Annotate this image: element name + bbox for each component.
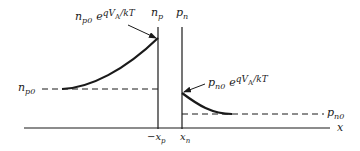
- np-edge-annotation: np0eqVA/kT: [75, 8, 136, 25]
- np-excess-curve: [62, 38, 158, 89]
- xn-label: xn: [180, 131, 191, 145]
- pn-junction-minority-carrier-diagram: x np pn −xp xn np0 pn0 np0eqVA/kT pn0eqV…: [0, 0, 360, 151]
- x-axis-label: x: [337, 121, 344, 134]
- np-annotation-arrow: [128, 25, 156, 38]
- pn-top-label: pn: [176, 6, 188, 21]
- pn-annotation-arrow: [184, 84, 205, 92]
- np0-level-label: np0: [18, 81, 35, 96]
- pn0-level-label: pn0: [327, 106, 344, 121]
- neg-xp-label: −xp: [147, 131, 166, 145]
- pn-excess-curve: [182, 93, 232, 114]
- np-top-label: np: [151, 6, 163, 21]
- pn-edge-annotation: pn0eqVA/kT: [208, 74, 269, 91]
